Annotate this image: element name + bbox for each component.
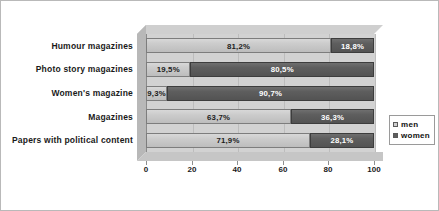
bar-value-label: 36,3% xyxy=(292,110,373,124)
axis-tick-label: 60 xyxy=(279,165,288,174)
bar-row: 81,2%18,8% xyxy=(146,38,374,53)
value-axis: 020406080100 xyxy=(137,161,387,179)
bar-segment-women[interactable]: 90,7% xyxy=(167,86,374,101)
bar-segment-men[interactable]: 81,2% xyxy=(146,38,331,53)
legend-swatch-men-icon xyxy=(393,122,398,127)
axis-tick-label: 20 xyxy=(188,165,197,174)
bar-segment-men[interactable]: 9,3% xyxy=(146,86,167,101)
bar-value-label: 19,5% xyxy=(147,63,189,77)
bar-value-label: 18,8% xyxy=(332,39,373,53)
category-label: Photo story magazines xyxy=(0,64,133,74)
category-label: Humour magazines xyxy=(0,41,133,51)
bar-value-label: 63,7% xyxy=(147,110,290,124)
bar-row: 9,3%90,7% xyxy=(146,86,374,101)
axis-tick-label: 40 xyxy=(233,165,242,174)
axis-tick-label: 100 xyxy=(367,165,380,174)
chart-legend: menwomen xyxy=(389,115,435,145)
axis-tick-label: 80 xyxy=(324,165,333,174)
legend-label: women xyxy=(401,130,430,141)
bar-value-label: 71,9% xyxy=(147,134,309,148)
plot-ceiling-3d xyxy=(137,25,383,34)
category-label: Women's magazine xyxy=(0,88,133,98)
axis-tick-label: 0 xyxy=(144,165,148,174)
bar-segment-men[interactable]: 63,7% xyxy=(146,109,291,124)
bar-segment-women[interactable]: 28,1% xyxy=(310,133,374,148)
plot-area: 81,2%18,8%19,5%80,5%9,3%90,7%63,7%36,3%7… xyxy=(137,25,383,161)
legend-item-men[interactable]: men xyxy=(393,119,430,130)
chart-frame: Humour magazinesPhoto story magazinesWom… xyxy=(0,0,439,211)
bar-value-label: 81,2% xyxy=(147,39,330,53)
category-axis-labels: Humour magazinesPhoto story magazinesWom… xyxy=(1,28,137,153)
bar-value-label: 80,5% xyxy=(191,63,373,77)
category-label: Papers with political content xyxy=(0,135,133,145)
bar-segment-women[interactable]: 80,5% xyxy=(190,62,374,77)
bar-row: 71,9%28,1% xyxy=(146,133,374,148)
bar-segment-men[interactable]: 19,5% xyxy=(146,62,190,77)
legend-swatch-women-icon xyxy=(393,133,398,138)
bar-value-label: 90,7% xyxy=(168,87,373,101)
category-label: Magazines xyxy=(0,112,133,122)
bar-segment-women[interactable]: 36,3% xyxy=(291,109,374,124)
bar-value-label: 28,1% xyxy=(311,134,373,148)
bar-segment-women[interactable]: 18,8% xyxy=(331,38,374,53)
bar-value-label: 9,3% xyxy=(147,87,166,101)
bar-row: 19,5%80,5% xyxy=(146,62,374,77)
bar-row: 63,7%36,3% xyxy=(146,109,374,124)
legend-item-women[interactable]: women xyxy=(393,130,430,141)
gridline xyxy=(375,34,376,152)
bar-segment-men[interactable]: 71,9% xyxy=(146,133,310,148)
legend-label: men xyxy=(401,119,418,130)
